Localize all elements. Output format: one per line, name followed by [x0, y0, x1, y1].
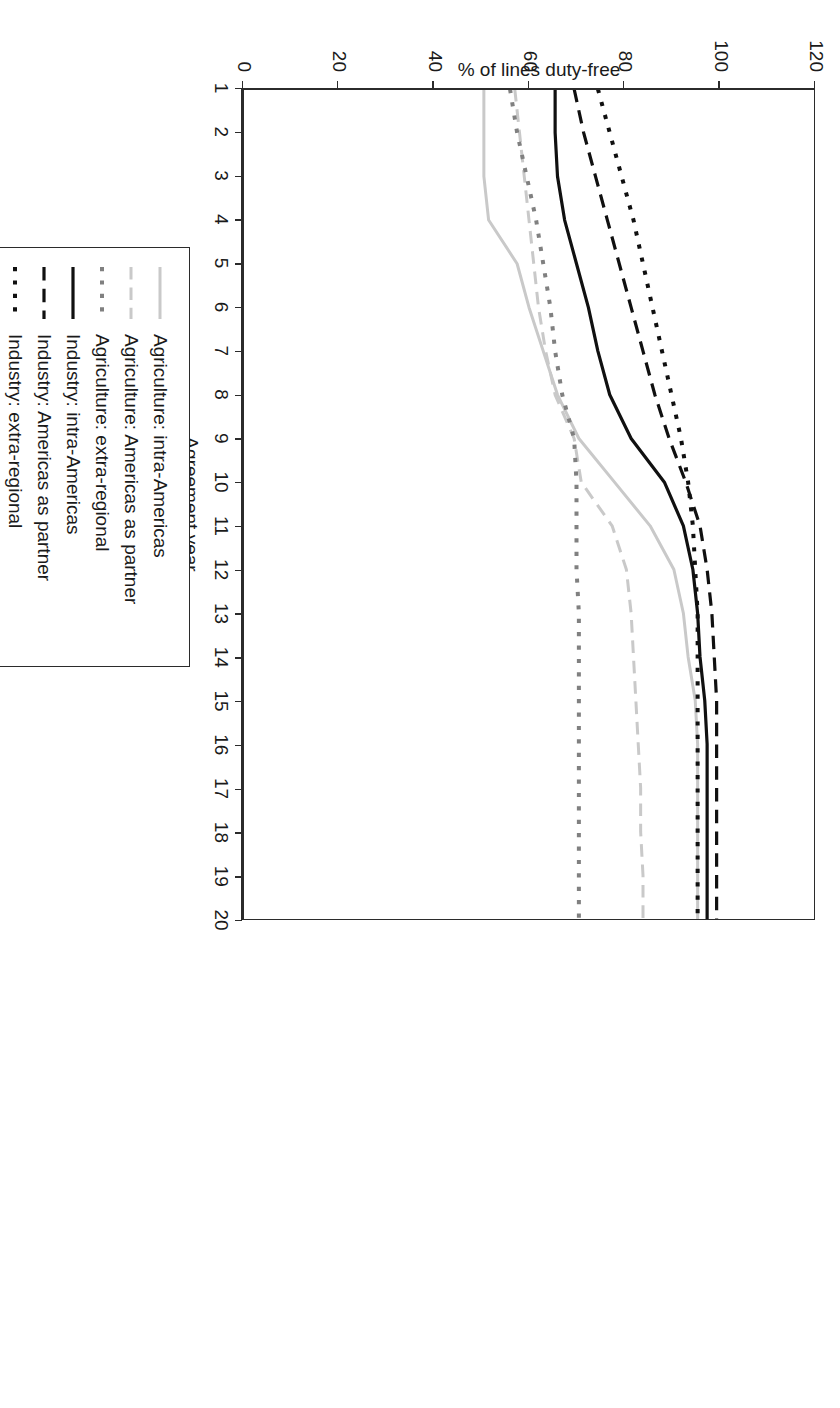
- legend-line-icon: [38, 266, 52, 320]
- x-tick-label: 9: [210, 418, 232, 458]
- x-tick: [235, 263, 242, 264]
- x-tick-label: 4: [210, 199, 232, 239]
- x-tick-label: 20: [210, 900, 232, 940]
- x-tick-label: 17: [210, 769, 232, 809]
- x-tick: [235, 88, 242, 89]
- legend-item-label: Agriculture: Americas as partner: [121, 334, 143, 604]
- x-tick-label: 6: [210, 287, 232, 327]
- x-tick-label: 8: [210, 375, 232, 415]
- x-tick: [235, 395, 242, 396]
- y-tick: [814, 81, 815, 88]
- y-tick-label: 20: [328, 10, 350, 72]
- y-axis-line: [243, 88, 815, 90]
- x-tick: [235, 570, 242, 571]
- x-tick: [235, 613, 242, 614]
- legend-line-icon: [96, 266, 110, 320]
- y-tick-label: 100: [710, 10, 732, 72]
- series-canvas: [244, 89, 814, 919]
- x-tick: [235, 920, 242, 921]
- x-tick: [235, 351, 242, 352]
- x-tick-label: 19: [210, 856, 232, 896]
- chart-figure: 1234567891011121314151617181920 02040608…: [0, 0, 840, 1408]
- x-tick: [235, 526, 242, 527]
- legend-item: Industry: intra-Americas: [59, 266, 88, 648]
- x-tick: [235, 307, 242, 308]
- y-tick: [623, 81, 624, 88]
- y-tick: [528, 81, 529, 88]
- series-line: [574, 89, 717, 919]
- x-tick-label: 18: [210, 812, 232, 852]
- x-tick: [235, 482, 242, 483]
- x-tick: [235, 657, 242, 658]
- series-line: [598, 89, 698, 919]
- x-tick: [235, 219, 242, 220]
- x-tick-label: 12: [210, 550, 232, 590]
- y-tick: [242, 81, 243, 88]
- legend-line-icon: [154, 266, 168, 320]
- x-tick: [235, 876, 242, 877]
- y-tick-label: 0: [233, 10, 255, 72]
- x-tick: [235, 701, 242, 702]
- x-tick-label: 2: [210, 112, 232, 152]
- legend-item-label: Agriculture: extra-regional: [92, 334, 114, 552]
- x-tick-label: 7: [210, 331, 232, 371]
- legend-item-label: Industry: Americas as partner: [34, 334, 56, 581]
- x-tick-label: 16: [210, 725, 232, 765]
- y-tick: [432, 81, 433, 88]
- x-tick-label: 10: [210, 462, 232, 502]
- legend-line-icon: [9, 266, 23, 320]
- y-tick: [718, 81, 719, 88]
- x-tick: [235, 438, 242, 439]
- x-tick: [235, 132, 242, 133]
- x-tick-label: 14: [210, 637, 232, 677]
- x-tick-label: 15: [210, 681, 232, 721]
- legend-item: Industry: extra-regional: [1, 266, 30, 648]
- legend-item: Agriculture: extra-regional: [88, 266, 117, 648]
- x-tick: [235, 745, 242, 746]
- x-axis-line: [242, 88, 244, 920]
- legend: Agriculture: intra-AmericasAgriculture: …: [0, 247, 190, 667]
- x-tick-label: 1: [210, 68, 232, 108]
- x-tick-label: 11: [210, 506, 232, 546]
- legend-item-label: Industry: intra-Americas: [63, 334, 85, 535]
- x-tick: [235, 789, 242, 790]
- legend-line-icon: [67, 266, 81, 320]
- y-axis-title: % of lines duty-free: [409, 59, 669, 81]
- plot-panel: [243, 88, 815, 920]
- legend-item: Industry: Americas as partner: [30, 266, 59, 648]
- legend-item: Agriculture: intra-Americas: [146, 266, 175, 648]
- x-tick: [235, 176, 242, 177]
- y-tick: [337, 81, 338, 88]
- rotated-figure-wrapper: 1234567891011121314151617181920 02040608…: [0, 0, 840, 1408]
- legend-item-label: Industry: extra-regional: [5, 334, 27, 528]
- legend-line-icon: [125, 266, 139, 320]
- series-line: [510, 89, 579, 919]
- legend-item-label: Agriculture: intra-Americas: [150, 334, 172, 558]
- x-tick-label: 13: [210, 593, 232, 633]
- x-tick: [235, 832, 242, 833]
- legend-item: Agriculture: Americas as partner: [117, 266, 146, 648]
- x-tick-label: 3: [210, 156, 232, 196]
- x-tick-label: 5: [210, 243, 232, 283]
- series-line: [484, 89, 698, 919]
- y-tick-label: 120: [805, 10, 827, 72]
